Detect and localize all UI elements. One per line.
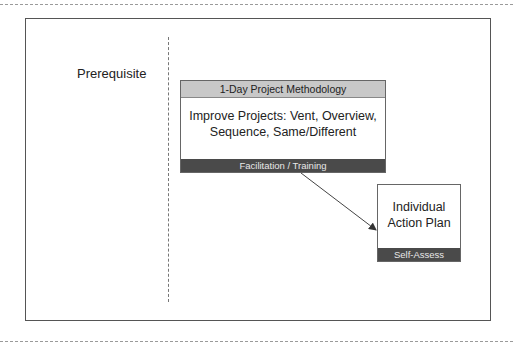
connector-arrow: [0, 0, 513, 344]
